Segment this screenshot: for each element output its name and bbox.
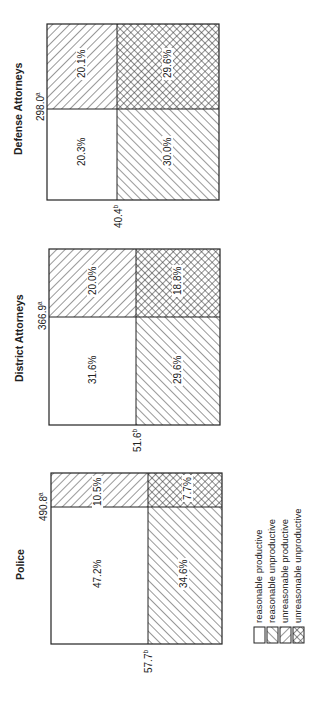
marginal-a-district: 366.9a — [36, 301, 48, 330]
legend-swatch-reasonable-productive — [254, 627, 265, 643]
pct-defense-unreasonable-productive: 20.1% — [76, 48, 87, 80]
pct-district-unreasonable-unproductive: 18.8% — [172, 265, 183, 297]
pct-defense-unreasonable-unproductive: 29.6% — [162, 48, 173, 80]
marginal-b-value: 40.4 — [113, 209, 124, 228]
panel-defense-attorneys — [47, 24, 219, 200]
legend-swatch-reasonable-unproductive — [267, 627, 278, 643]
pct-district-unreasonable-productive: 20.0% — [87, 265, 98, 297]
legend-swatch-unreasonable-unproductive — [293, 627, 304, 643]
legend-swatch-unreasonable-productive — [280, 627, 291, 643]
pct-police-unreasonable-productive: 10.5% — [92, 476, 103, 508]
pct-police-unreasonable-unproductive: 7.7% — [182, 475, 193, 502]
marginal-a-value: 298.0 — [35, 96, 46, 121]
panel-police — [51, 473, 222, 644]
panel-title-district: District Attorneys — [13, 294, 25, 382]
footnote-b: b — [142, 650, 149, 654]
marginal-b-district: 51.6b — [131, 429, 143, 452]
footnote-a: a — [34, 92, 41, 96]
marginal-b-defense: 40.4b — [112, 205, 124, 228]
legend-swatches — [254, 627, 304, 643]
footnote-a: a — [36, 301, 43, 305]
pct-district-reasonable-unproductive: 29.6% — [172, 354, 183, 386]
legend-label-unreasonable-unproductive: unreasonable unproductive — [292, 508, 303, 623]
marginal-a-value: 366.9 — [37, 305, 48, 330]
pct-defense-reasonable-productive: 20.3% — [76, 136, 87, 168]
pct-district-reasonable-productive: 31.6% — [87, 354, 98, 386]
marginal-a-defense: 298.0a — [34, 92, 46, 121]
panel-title-defense: Defense Attorneys — [12, 63, 24, 155]
marginal-a-police: 490.8a — [37, 492, 49, 521]
marginal-b-police: 57.7b — [142, 650, 154, 673]
footnote-a: a — [37, 492, 44, 496]
marginal-b-value: 57.7 — [143, 654, 154, 673]
panel-title-police: Police — [14, 549, 26, 580]
legend-label-reasonable-unproductive: reasonable unproductive — [266, 519, 277, 623]
mosaic-chart-canvas — [0, 0, 326, 713]
legend-label-reasonable-productive: reasonable productive — [253, 530, 264, 623]
legend-label-unreasonable-productive: unreasonable productive — [279, 519, 290, 623]
pct-police-reasonable-productive: 47.2% — [92, 558, 103, 590]
footnote-b: b — [131, 429, 138, 433]
footnote-b: b — [112, 205, 119, 209]
marginal-a-value: 490.8 — [38, 496, 49, 521]
panel-district-attorneys — [49, 249, 220, 425]
pct-defense-reasonable-unproductive: 30.0% — [162, 136, 173, 168]
marginal-b-value: 51.6 — [132, 433, 143, 452]
pct-police-reasonable-unproductive: 34.6% — [178, 558, 189, 590]
